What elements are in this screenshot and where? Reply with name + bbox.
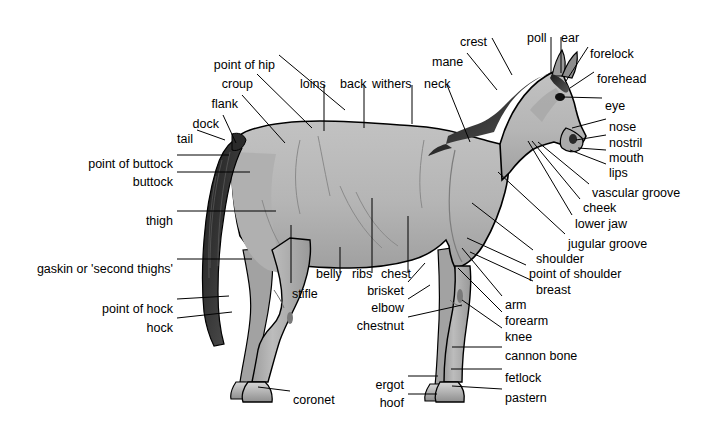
label-croup: croup [222,78,253,91]
label-fetlock: fetlock [505,372,541,385]
label-forehead: forehead [597,73,646,86]
label-pastern: pastern [505,392,547,405]
label-breast: breast [536,284,571,297]
label-ear: ear [561,32,579,45]
label-dock: dock [193,118,219,131]
label-knee: knee [505,331,532,344]
label-shoulder: shoulder [536,253,584,266]
label-flank: flank [212,98,238,111]
label-poll: poll [527,32,546,45]
label-neck: neck [424,78,450,91]
label-coronet: coronet [293,394,335,407]
label-layer: point of hipcrouploinsbackwithersneckman… [0,0,718,435]
label-point-of-hip: point of hip [214,59,275,72]
label-chestnut: chestnut [357,320,404,333]
label-hock: hock [147,322,173,335]
label-back: back [340,78,366,91]
label-ribs: ribs [352,268,372,281]
label-eye: eye [605,100,625,113]
label-nose: nose [609,121,636,134]
label-lower-jaw: lower jaw [575,218,627,231]
label-jugular-groove: jugular groove [568,238,647,251]
label-chest: chest [381,268,411,281]
label-cannon-bone: cannon bone [505,350,577,363]
label-brisket: brisket [367,285,404,298]
label-gaskin: gaskin or 'second thighs' [37,263,173,276]
label-mane: mane [432,56,463,69]
label-forearm: forearm [505,315,548,328]
label-cheek: cheek [583,202,616,215]
horse-anatomy-diagram: point of hipcrouploinsbackwithersneckman… [0,0,718,435]
label-belly: belly [316,268,342,281]
label-stifle: stifle [292,288,318,301]
label-mouth: mouth [609,152,644,165]
label-crest: crest [460,36,487,49]
label-thigh: thigh [146,215,173,228]
label-vascular-groove: vascular groove [592,187,680,200]
label-arm: arm [505,299,527,312]
label-elbow: elbow [371,302,404,315]
label-ergot: ergot [376,379,405,392]
label-point-of-buttock: point of buttock [88,158,173,171]
label-withers: withers [372,78,412,91]
label-point-of-hock: point of hock [102,303,173,316]
label-forelock: forelock [590,48,634,61]
label-lips: lips [609,167,628,180]
label-tail: tail [177,133,193,146]
label-point-of-shoulder: point of shoulder [529,268,621,281]
label-nostril: nostril [609,137,642,150]
label-hoof: hoof [380,397,404,410]
label-buttock: buttock [133,176,173,189]
label-loins: loins [300,78,326,91]
